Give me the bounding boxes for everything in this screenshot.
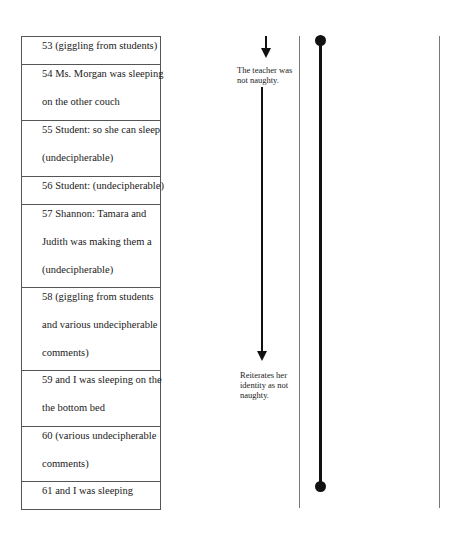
- transcript-line: comments): [42, 344, 160, 372]
- transcript-line: 55 Student: so she can sleep: [42, 121, 160, 149]
- annotation-line: identity as not: [240, 380, 288, 390]
- annotation-teacher-not-naughty: The teacher was not naughty.: [237, 65, 292, 85]
- table-row: 61 and I was sleeping: [22, 482, 160, 510]
- transcript-line: 58 (giggling from students: [42, 288, 160, 316]
- transcript-line: (undecipherable): [42, 149, 160, 177]
- arrow-down-icon: [261, 48, 271, 58]
- arrow-down-icon: [257, 351, 267, 361]
- annotation-line: naughty.: [240, 390, 288, 400]
- transcript-line: 61 and I was sleeping: [42, 482, 160, 510]
- transcript-table: 53 (giggling from students)54 Ms. Morgan…: [21, 36, 161, 510]
- transcript-line: the bottom bed: [42, 399, 160, 427]
- annotation-reiterates-identity: Reiterates her identity as not naughty.: [240, 370, 288, 400]
- table-row: 59 and I was sleeping on thethe bottom b…: [22, 371, 160, 427]
- annotation-line: Reiterates her: [240, 370, 288, 380]
- table-row: 60 (various undecipherablecomments): [22, 427, 160, 482]
- transcript-line: (undecipherable): [42, 261, 160, 289]
- table-row: 55 Student: so she can sleep(undeciphera…: [22, 121, 160, 177]
- transcript-line: 56 Student: (undecipherable): [42, 177, 160, 205]
- transcript-line: 54 Ms. Morgan was sleeping: [42, 65, 160, 93]
- transcript-line: 59 and I was sleeping on the: [42, 371, 160, 399]
- table-row: 58 (giggling from studentsand various un…: [22, 288, 160, 371]
- table-row: 54 Ms. Morgan was sleepingon the other c…: [22, 65, 160, 121]
- transcript-line: and various undecipherable: [42, 316, 160, 344]
- annotation-line: The teacher was: [237, 65, 292, 75]
- transcript-line: 57 Shannon: Tamara and: [42, 205, 160, 233]
- arrow-shaft-long: [261, 87, 263, 352]
- transcript-line: comments): [42, 455, 160, 483]
- column-divider-left: [299, 36, 300, 508]
- column-divider-right: [439, 36, 440, 508]
- transcript-line: on the other couch: [42, 93, 160, 121]
- annotation-line: not naughty.: [237, 75, 292, 85]
- timeline-bar: [319, 40, 322, 486]
- transcript-line: 60 (various undecipherable: [42, 427, 160, 455]
- timeline-end-dot: [315, 481, 326, 492]
- table-row: 56 Student: (undecipherable): [22, 177, 160, 205]
- transcript-line: 53 (giggling from students): [42, 37, 160, 65]
- table-row: 53 (giggling from students): [22, 37, 160, 65]
- transcript-line: Judith was making them a: [42, 233, 160, 261]
- table-row: 57 Shannon: Tamara andJudith was making …: [22, 205, 160, 288]
